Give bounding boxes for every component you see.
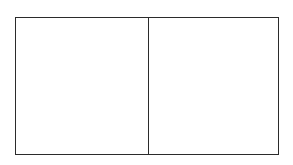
left-cell [16,18,149,154]
right-cell [149,18,278,154]
outer-rectangle [15,17,279,155]
diagram-canvas [0,0,293,165]
